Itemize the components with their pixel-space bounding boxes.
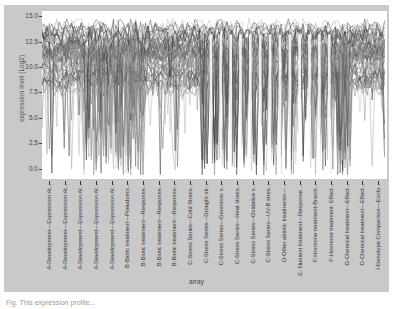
x-tick: G-Chemical treatment---Effect... — [343, 179, 353, 279]
x-tick-label: C-Stress Series---Oxidative s... — [249, 184, 258, 284]
x-tick: A-Development---Expression At... — [61, 179, 71, 279]
x-tick: G-Chemical treatment---Effect... — [358, 179, 368, 279]
x-tick: B-Biotic treatment---Pseudomo... — [123, 179, 133, 279]
figure-caption: Fig. This expression profile... — [6, 299, 396, 309]
x-tick-label: C-Stress Series---UV-B stres... — [265, 184, 274, 284]
x-tick: B-Biotic treatment---Response... — [139, 179, 149, 279]
x-tick: C-Stress Series---Oxidative s... — [249, 179, 259, 279]
x-tick: C-Stress Series---Heat stress... — [233, 179, 243, 279]
y-tick-label: 7.5 — [14, 88, 38, 95]
y-tick-label: 10.0 — [14, 63, 38, 70]
x-tick-label: G-Chemical treatment---Effect... — [359, 184, 368, 284]
expression-lines — [42, 11, 387, 179]
x-tick-label: B-Biotic treatment---Response... — [155, 184, 164, 284]
x-tick: C-Stress Series---Drought str... — [202, 179, 212, 279]
x-tick-label: A-Development---Expression At... — [92, 184, 101, 284]
y-tick-label: 5.0 — [14, 114, 38, 121]
y-tick-label: 12.5 — [14, 38, 38, 45]
x-tick: C-Stress Series---Cold Stress... — [186, 179, 196, 279]
x-tick: C-Stress Series---UV-B stres... — [264, 179, 274, 279]
x-tick-label: A-Development---Expression At... — [108, 184, 117, 284]
plot-area — [42, 11, 387, 179]
x-tick-label: G-Chemical treatment---Effect... — [343, 184, 352, 284]
x-tick: A-Development---Expression At... — [45, 179, 55, 279]
x-tick: D-Other abiotic treatments---... — [280, 179, 290, 279]
x-tick-label: C-Stress Series---Cold Stress... — [186, 184, 195, 284]
x-tick: F-Hormone treatment: Effect... — [327, 179, 337, 279]
x-tick: F-Hormone treatment-Brasin... — [311, 179, 321, 279]
y-tick-label: 0.0 — [14, 165, 38, 172]
x-tick: A-Development---Expression At... — [108, 179, 118, 279]
y-tick-label: 2.5 — [14, 139, 38, 146]
y-tick-label: 15.0 — [14, 12, 38, 19]
x-tick: E- Nutrient treatment---Response ... — [296, 179, 306, 279]
x-tick: C-Stress Series---Genotoxic s... — [217, 179, 227, 279]
x-tick-label: A-Development---Expression At... — [77, 184, 86, 284]
x-axis-label: array — [4, 278, 389, 285]
x-tick: I-Genotype Comparison---Ecoty... — [374, 179, 384, 279]
x-tick: B-Biotic treatment---Response... — [155, 179, 165, 279]
x-tick-label: D-Other abiotic treatments---... — [281, 184, 290, 284]
x-tick-label: C-Stress Series---Drought str... — [202, 184, 211, 284]
x-tick: B-Biotic treatment---Response... — [170, 179, 180, 279]
x-tick-label: B-Biotic treatment---Pseudomo... — [124, 184, 133, 284]
x-tick-label: F-Hormone treatment-Brasin... — [312, 184, 321, 284]
x-tick-label: B-Biotic treatment---Response... — [139, 184, 148, 284]
x-tick-label: C-Stress Series---Heat stress... — [234, 184, 243, 284]
x-tick-label: A-Development---Expression At... — [61, 184, 70, 284]
chart-frame: expression level (Log2) 0.02.55.07.510.0… — [4, 5, 389, 292]
x-tick-label: E- Nutrient treatment---Response ... — [296, 184, 305, 284]
x-tick: A-Development---Expression At... — [76, 179, 86, 279]
x-tick-label: B-Biotic treatment---Response... — [171, 184, 180, 284]
x-tick-label: I-Genotype Comparison---Ecoty... — [375, 184, 384, 284]
x-tick: A-Development---Expression At... — [92, 179, 102, 279]
x-tick-label: F-Hormone treatment: Effect... — [328, 184, 337, 284]
x-tick-label: C-Stress Series---Genotoxic s... — [218, 184, 227, 284]
x-tick-label: A-Development---Expression At... — [45, 184, 54, 284]
